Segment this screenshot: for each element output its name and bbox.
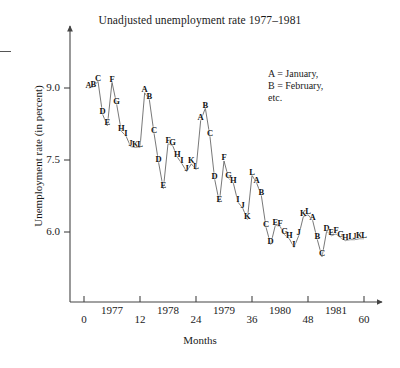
y-tick-label: 7.5 — [26, 153, 60, 165]
x-year-label: 1978 — [146, 304, 190, 316]
x-year-label: 1980 — [258, 304, 302, 316]
x-tick-marks — [84, 296, 364, 302]
chart-figure: Unadjusted unemployment rate 1977–1981 U… — [0, 0, 400, 368]
data-line — [89, 81, 364, 257]
x-year-label: 1979 — [202, 304, 246, 316]
y-tick-label: 6.0 — [26, 225, 60, 237]
y-tick-label: 9.0 — [26, 81, 60, 93]
y-tick-marks — [64, 88, 70, 232]
x-year-label: 1981 — [314, 304, 358, 316]
x-year-label: 1977 — [90, 304, 134, 316]
